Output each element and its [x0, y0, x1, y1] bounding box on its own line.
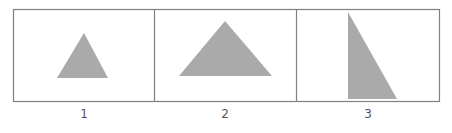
triangle-1: [57, 33, 108, 78]
triangle-2: [179, 21, 272, 76]
panel-label-3: 3: [358, 107, 378, 121]
triangle-3: [348, 12, 397, 99]
panel-label-2: 2: [215, 107, 235, 121]
panel-label-1: 1: [74, 107, 94, 121]
